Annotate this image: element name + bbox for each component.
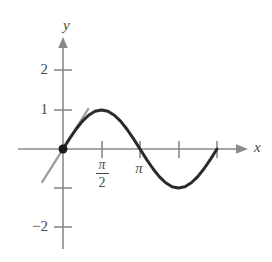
sine-tangent-figure: y x 2 1 −2 π 2 π xyxy=(0,0,272,262)
pi-over-2-denominator: 2 xyxy=(89,175,115,190)
x-tick-label-pi: π xyxy=(128,161,150,176)
y-axis-label: y xyxy=(63,18,70,33)
y-tick-label-2: 2 xyxy=(26,62,48,77)
pi-over-2-numerator: π xyxy=(89,157,115,172)
fraction-bar xyxy=(96,173,109,174)
point-of-tangency xyxy=(59,145,68,154)
y-tick-label-1: 1 xyxy=(26,102,48,117)
y-tick-label-negative-2: −2 xyxy=(17,219,48,234)
x-axis-label: x xyxy=(254,140,261,155)
x-tick-label-pi-over-2: π 2 xyxy=(89,157,115,190)
